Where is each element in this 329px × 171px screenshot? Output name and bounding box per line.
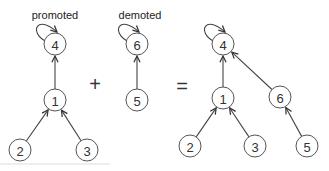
node-label: 1 (219, 92, 226, 107)
edge-result-2-to-1 (196, 108, 216, 137)
edge-promoted-2-to-1 (26, 110, 48, 141)
plus-operator: + (89, 73, 101, 95)
edge-result-5-to-6 (286, 108, 302, 137)
node-result-2: 2 (179, 135, 201, 157)
node-label: 5 (303, 140, 310, 155)
node-label: 2 (16, 144, 23, 159)
node-label: 2 (186, 140, 193, 155)
node-promoted-3: 3 (76, 139, 98, 161)
node-label: 4 (219, 38, 226, 53)
promoted-label: promoted (32, 9, 78, 21)
node-label: 3 (83, 144, 90, 159)
nodes: 412365412365 (9, 33, 318, 161)
equals-operator: = (176, 75, 188, 97)
node-promoted-4: 4 (44, 33, 66, 55)
union-find-diagram: promoted demoted + = 412365412365 (0, 0, 329, 171)
edge-result-6-to-4 (232, 52, 272, 89)
demoted-label: demoted (119, 9, 162, 21)
node-promoted-2: 2 (9, 139, 31, 161)
node-demoted-6: 6 (126, 33, 148, 55)
node-promoted-1: 1 (44, 89, 66, 111)
node-label: 5 (133, 94, 140, 109)
node-label: 6 (276, 91, 283, 106)
node-demoted-5: 5 (126, 89, 148, 111)
node-label: 1 (51, 94, 58, 109)
node-result-3: 3 (244, 135, 266, 157)
node-label: 6 (133, 38, 140, 53)
node-result-4: 4 (212, 33, 234, 55)
node-label: 4 (51, 38, 58, 53)
node-result-6: 6 (269, 86, 291, 108)
node-label: 3 (251, 140, 258, 155)
edge-promoted-3-to-1 (61, 110, 81, 141)
node-result-1: 1 (212, 87, 234, 109)
edges (26, 52, 301, 141)
node-result-5: 5 (296, 135, 318, 157)
edge-result-3-to-1 (230, 108, 249, 137)
